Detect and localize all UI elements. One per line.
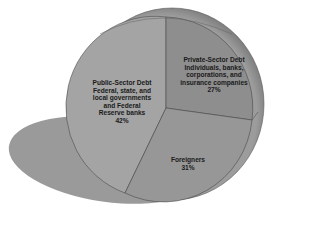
label-public-line4: Reserve banks bbox=[78, 109, 166, 117]
label-public-sector: Public-Sector Debt Federal, state, and l… bbox=[78, 79, 166, 125]
label-private-line1: Individuals, banks, bbox=[166, 64, 262, 72]
label-private-line3: insurance companies bbox=[166, 79, 262, 87]
label-private-pct: 27% bbox=[166, 86, 262, 94]
label-public-line2: local governments bbox=[78, 94, 166, 102]
label-foreigners-title: Foreigners bbox=[160, 156, 216, 164]
label-foreigners-pct: 31% bbox=[160, 164, 216, 172]
label-private-title: Private-Sector Debt bbox=[166, 56, 262, 64]
label-private-line2: corporations, and bbox=[166, 71, 262, 79]
label-public-pct: 42% bbox=[78, 117, 166, 125]
label-public-title: Public-Sector Debt bbox=[78, 79, 166, 87]
label-private-sector: Private-Sector Debt Individuals, banks, … bbox=[166, 56, 262, 94]
label-public-line3: and Federal bbox=[78, 102, 166, 110]
label-public-line1: Federal, state, and bbox=[78, 87, 166, 95]
label-foreigners: Foreigners 31% bbox=[160, 156, 216, 171]
